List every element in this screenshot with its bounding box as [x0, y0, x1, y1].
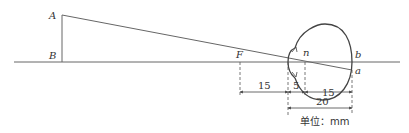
unit-label: 单位：mm [300, 115, 349, 127]
eye-cornea [288, 48, 295, 78]
dim-label-5: 5 [293, 80, 299, 91]
dim-label-20: 20 [316, 96, 329, 107]
label-a-point: A [48, 10, 56, 21]
label-b-point: B [48, 50, 56, 61]
label-a-retina: a [355, 65, 361, 76]
eye-optics-diagram: A B F n b a 15 5 15 20 单位：mm [0, 0, 409, 133]
label-n-point: n [303, 47, 309, 58]
label-b-retina: b [355, 49, 361, 60]
label-f-point: F [235, 49, 244, 60]
dim-label-15-left: 15 [258, 80, 271, 91]
